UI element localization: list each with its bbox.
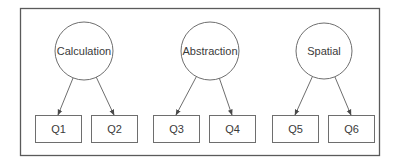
indicator-q3: Q3 bbox=[154, 116, 200, 143]
factor-calculation: Calculation bbox=[55, 22, 113, 80]
factor-label: Spatial bbox=[307, 45, 341, 57]
edge-arrow bbox=[176, 75, 197, 115]
factor-label: Calculation bbox=[57, 45, 111, 57]
factor-label: Abstraction bbox=[182, 45, 237, 57]
indicator-label: Q6 bbox=[344, 123, 359, 135]
indicator-q1: Q1 bbox=[36, 116, 82, 143]
indicator-label: Q3 bbox=[169, 123, 184, 135]
indicator-label: Q1 bbox=[51, 123, 66, 135]
indicator-label: Q4 bbox=[225, 123, 240, 135]
factor-abstraction: Abstraction bbox=[181, 22, 239, 80]
indicator-q6: Q6 bbox=[329, 116, 375, 143]
indicator-q2: Q2 bbox=[92, 116, 138, 143]
edge-arrow bbox=[219, 77, 232, 115]
factor-spatial: Spatial bbox=[296, 23, 352, 79]
indicator-q5: Q5 bbox=[273, 116, 319, 143]
edge-arrow bbox=[96, 76, 114, 115]
indicator-q4: Q4 bbox=[210, 116, 256, 143]
indicator-label: Q2 bbox=[107, 123, 122, 135]
edge-arrow bbox=[334, 76, 351, 115]
indicator-label: Q5 bbox=[288, 123, 303, 135]
edge-arrow bbox=[295, 75, 313, 115]
factor-diagram: Calculation Abstraction Spatial Q1 Q2 Q3… bbox=[0, 0, 399, 166]
edge-arrow bbox=[58, 77, 74, 115]
edges-group bbox=[58, 75, 351, 115]
